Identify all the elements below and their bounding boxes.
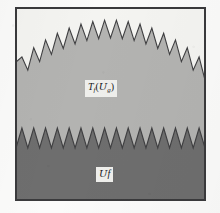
- label-lower-main-symbol: f: [107, 168, 110, 179]
- label-upper-region: Tf(Ug): [85, 80, 117, 97]
- label-upper-close-paren: ): [111, 81, 114, 92]
- label-lower-region: Uf: [96, 167, 113, 182]
- figure-root: Tf(Ug) Uf: [0, 0, 220, 213]
